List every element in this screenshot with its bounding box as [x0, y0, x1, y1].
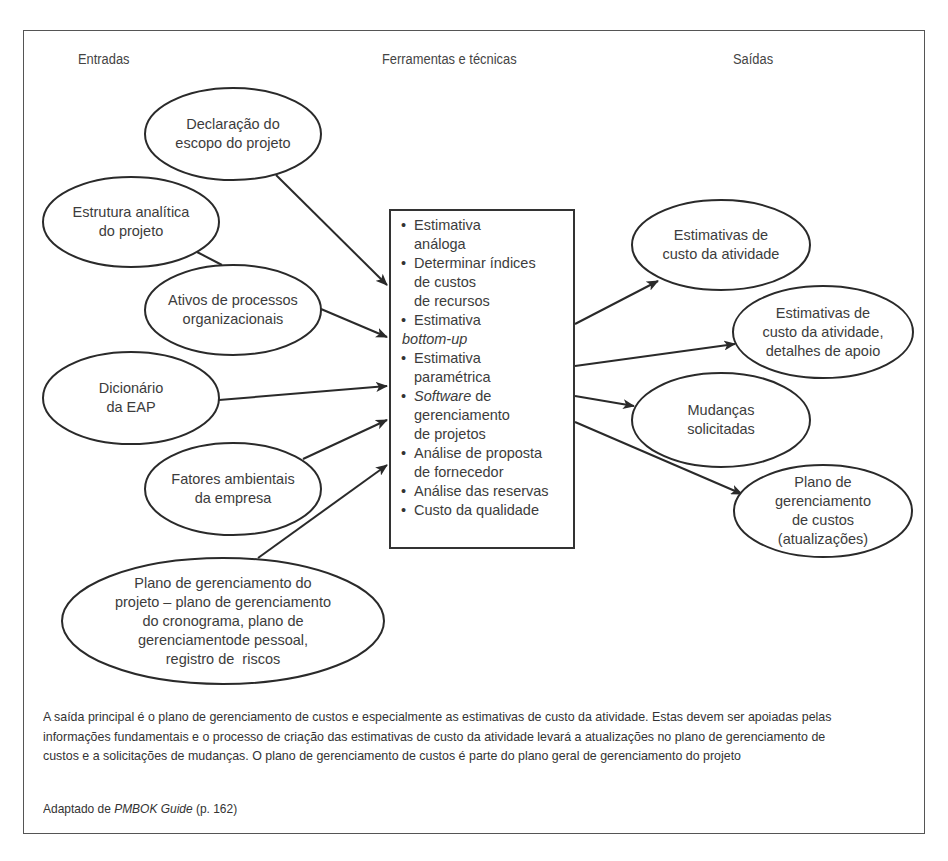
figure-source: Adaptado de PMBOK Guide (p. 162): [43, 801, 237, 816]
tool-item: Custo da qualidade: [401, 501, 569, 520]
node-estimativas: Estimativas decusto da atividade: [632, 219, 810, 271]
tools-box: Estimativaanáloga Determinar índicesde c…: [389, 209, 575, 549]
arrow-dicionario: [219, 386, 387, 400]
tool-item: Estimativaparamétrica: [401, 349, 569, 387]
tool-item: Análise das reservas: [401, 482, 569, 501]
tool-item: Estimativabottom-up: [401, 311, 569, 349]
node-estrutura: Estrutura analíticado projeto: [43, 196, 219, 248]
tool-item: Determinar índicesde custosde recursos: [401, 254, 569, 311]
header-outputs: Saídas: [733, 51, 773, 67]
tools-list: Estimativaanáloga Determinar índicesde c…: [401, 216, 569, 520]
header-inputs: Entradas: [78, 51, 130, 67]
node-plano-projeto: Plano de gerenciamento do projeto – plan…: [63, 570, 383, 672]
node-fatores: Fatores ambientaisda empresa: [145, 463, 321, 515]
header-tools: Ferramentas e técnicas: [382, 51, 517, 67]
figure-caption: A saída principal é o plano de gerenciam…: [43, 707, 843, 766]
node-mudancas: Mudançassolicitadas: [632, 394, 810, 446]
arrow-estimativas: [575, 281, 658, 324]
arrow-fatores: [303, 420, 387, 459]
arrow-declaracao: [276, 175, 387, 285]
tool-item: Análise de propostade fornecedor: [401, 444, 569, 482]
tool-item: Estimativaanáloga: [401, 216, 569, 254]
arrow-estimativas-apoio: [575, 344, 735, 366]
node-dicionario: Dicionárioda EAP: [43, 372, 219, 424]
node-declaracao: Declaração doescopo do projeto: [145, 108, 321, 160]
arrow-ativos: [321, 309, 387, 337]
arrow-mudancas: [575, 396, 634, 406]
connector-estrutura-ativos: [197, 252, 222, 265]
tool-item: Software degerenciamentode projetos: [401, 387, 569, 444]
node-ativos: Ativos de processosorganizacionais: [145, 284, 321, 336]
node-plano-custos: Plano degerenciamentode custos(atualizaç…: [734, 471, 912, 551]
node-estimativas-apoio: Estimativas decusto da atividade,detalhe…: [733, 296, 913, 368]
